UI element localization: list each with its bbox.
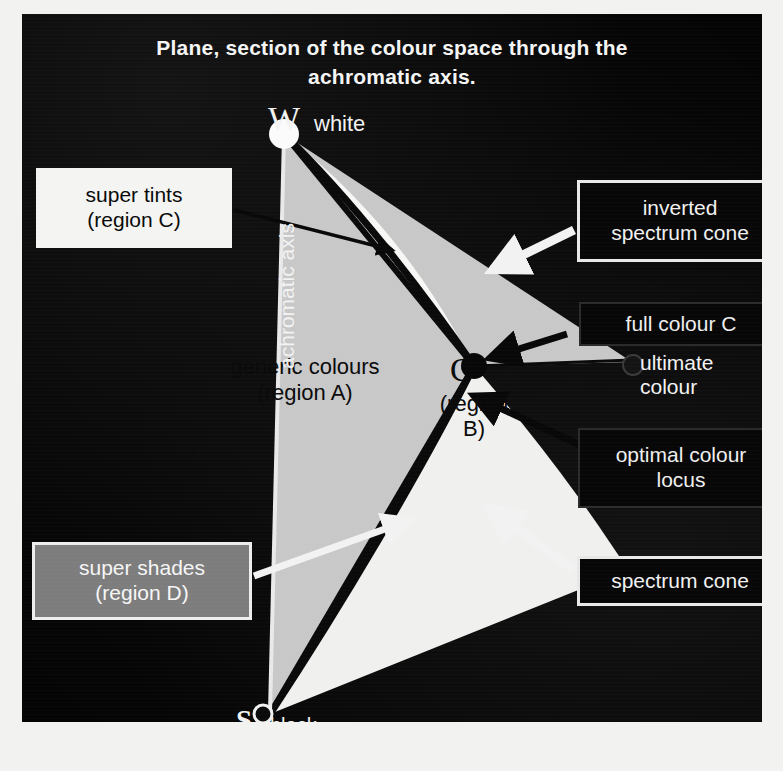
region-a-label-line-2: (region A) xyxy=(200,380,410,406)
callout-spectrum-cone-text: spectrum cone xyxy=(611,569,749,594)
white-point-symbol: W xyxy=(268,100,300,138)
callout-inverted-spectrum-cone-line-1: inverted xyxy=(611,196,749,221)
achromatic-axis-label: achromatic axis xyxy=(275,181,299,411)
arrow-inverted-spectrum-cone xyxy=(492,230,574,270)
callout-super-shades-line-2: (region D) xyxy=(79,581,205,606)
callout-super-tints-line-1: super tints xyxy=(86,183,183,208)
callout-inverted-spectrum-cone: inverted spectrum cone xyxy=(577,180,762,262)
callout-full-colour-text: full colour C xyxy=(626,312,737,337)
callout-optimal-colour-locus: optimal colour locus xyxy=(578,428,762,508)
callout-super-tints: super tints (region C) xyxy=(36,168,232,248)
callout-spectrum-cone: spectrum cone xyxy=(577,556,762,606)
figure-page: Plane, section of the colour space throu… xyxy=(0,0,783,771)
callout-super-shades-line-1: super shades xyxy=(79,556,205,581)
black-point-symbol: S xyxy=(236,704,252,722)
callout-full-colour: full colour C xyxy=(579,302,762,346)
callout-inverted-spectrum-cone-line-2: spectrum cone xyxy=(611,221,749,246)
region-a-label: generic colours (region A) xyxy=(200,354,410,407)
region-a-label-line-1: generic colours xyxy=(200,354,410,380)
ultimate-colour-label: ultimate colour xyxy=(640,351,762,399)
region-b-label-line-2: B) xyxy=(426,417,522,442)
region-b-label-line-1: (region xyxy=(426,392,522,417)
region-b-label: (region B) xyxy=(426,392,522,441)
full-colour-point-symbol: C xyxy=(450,352,472,389)
callout-optimal-colour-locus-line-1: optimal colour xyxy=(616,443,747,468)
white-point-label: white xyxy=(314,111,365,137)
diagram-panel: Plane, section of the colour space throu… xyxy=(22,14,762,722)
callout-super-shades: super shades (region D) xyxy=(32,542,252,620)
callout-super-tints-line-2: (region C) xyxy=(86,208,183,233)
callout-optimal-colour-locus-line-2: locus xyxy=(616,468,747,493)
black-point-label: black xyxy=(270,714,317,722)
